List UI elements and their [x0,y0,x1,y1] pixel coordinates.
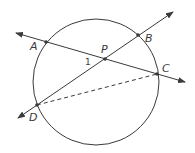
circle [33,19,159,145]
label-P: P [101,43,108,56]
label-B: B [145,32,153,45]
angle-1-label: 1 [85,57,91,67]
segment-DC [37,74,157,105]
point-C [155,72,159,76]
diagram-canvas: A B C D P 1 [0,0,195,153]
point-P [103,57,107,61]
label-C: C [162,62,170,75]
point-A [44,40,48,44]
line-AC [16,33,185,82]
label-A: A [29,40,38,53]
point-B [136,33,140,37]
point-D [35,103,39,107]
line-DB [18,12,173,118]
label-D: D [29,111,37,124]
